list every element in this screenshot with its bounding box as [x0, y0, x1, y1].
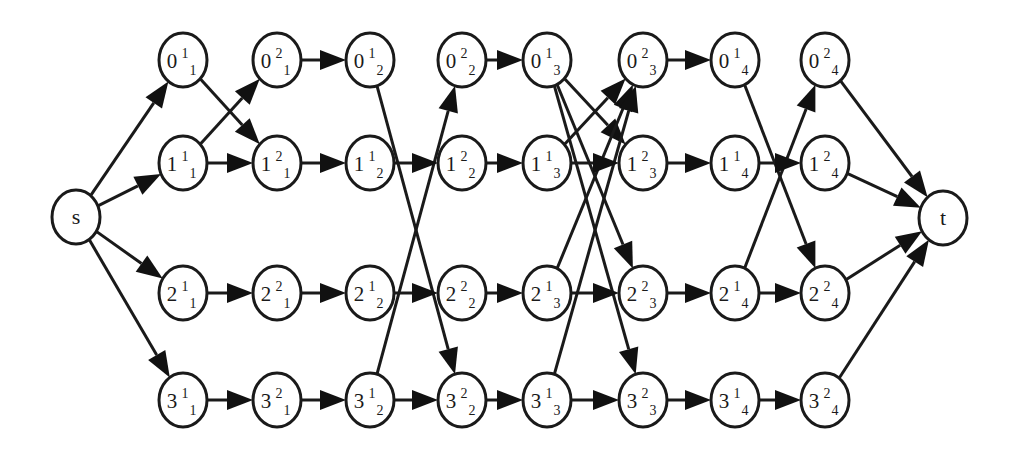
node-base-label: 1 — [354, 152, 365, 176]
node-superscript: 2 — [461, 149, 468, 164]
node-subscript: 1 — [190, 296, 197, 311]
node-2_1_2: 212 — [346, 266, 394, 320]
arrowhead-icon — [797, 85, 816, 113]
graph-diagram: st01111121131102112122132101211221231202… — [0, 0, 1019, 464]
arrowhead-icon — [685, 153, 711, 173]
edge-2_1_1-to-2_2_1 — [207, 283, 253, 303]
edge-3_1_4-to-3_2_4 — [759, 390, 801, 410]
node-superscript: 1 — [546, 149, 553, 164]
arrowhead-icon — [227, 153, 253, 173]
node-base-label: 2 — [627, 282, 638, 306]
node-s: s — [52, 190, 100, 244]
node-0_1_3: 013 — [523, 33, 571, 87]
arrowhead-icon — [412, 390, 438, 410]
edge-3_2_4-to-t — [839, 240, 929, 378]
node-3_1_2: 312 — [346, 373, 394, 427]
node-subscript: 2 — [377, 296, 384, 311]
arrowhead-icon — [685, 390, 711, 410]
node-superscript: 1 — [546, 279, 553, 294]
node-superscript: 2 — [642, 149, 649, 164]
node-base-label: 1 — [261, 152, 272, 176]
node-subscript: 1 — [284, 296, 291, 311]
arrowhead-icon — [227, 283, 253, 303]
edge-3_2_2-to-3_1_3 — [486, 390, 523, 410]
arrowhead-icon — [685, 283, 711, 303]
node-base-label: 1 — [719, 152, 730, 176]
node-subscript: 1 — [190, 63, 197, 78]
node-subscript: 3 — [554, 296, 561, 311]
edge-2_2_1-to-2_1_2 — [301, 283, 346, 303]
node-subscript: 4 — [742, 63, 749, 78]
node-3_2_1: 321 — [253, 373, 301, 427]
node-superscript: 2 — [461, 386, 468, 401]
arrowhead-icon — [619, 347, 638, 375]
edge-3_1_1-to-3_2_1 — [207, 390, 253, 410]
edge-1_2_1-to-1_1_2 — [301, 153, 346, 173]
edge-2_2_2-to-2_1_3 — [486, 283, 523, 303]
node-base-label: 3 — [261, 389, 272, 413]
node-subscript: 4 — [742, 403, 749, 418]
edge-3_1_2-to-3_2_2 — [394, 390, 438, 410]
node-superscript: 2 — [642, 279, 649, 294]
arrowhead-icon — [497, 153, 523, 173]
edge-2_1_4-to-2_2_4 — [759, 283, 801, 303]
arrowhead-icon — [893, 188, 921, 208]
node-3_1_3: 313 — [523, 373, 571, 427]
arrowhead-icon — [497, 283, 523, 303]
node-2_1_3: 213 — [523, 266, 571, 320]
node-1_1_3: 113 — [523, 136, 571, 190]
arrowhead-icon — [497, 390, 523, 410]
node-t: t — [919, 191, 967, 245]
node-superscript: 2 — [461, 279, 468, 294]
arrowhead-icon — [775, 283, 801, 303]
node-subscript: 2 — [469, 63, 476, 78]
node-2_2_1: 221 — [253, 266, 301, 320]
arrowhead-icon — [320, 283, 346, 303]
node-subscript: 4 — [832, 296, 839, 311]
node-base-label: 3 — [167, 389, 178, 413]
edge-0_2_4-to-t — [840, 81, 927, 198]
node-superscript: 2 — [276, 46, 283, 61]
arrowhead-icon — [320, 390, 346, 410]
arrowhead-icon — [146, 81, 169, 108]
node-base-label: 0 — [261, 49, 272, 73]
arrowhead-icon — [227, 390, 253, 410]
node-base-label: 3 — [809, 389, 820, 413]
arrowhead-icon — [439, 347, 458, 375]
arrowhead-icon — [320, 153, 346, 173]
node-subscript: 1 — [284, 63, 291, 78]
node-1_2_4: 124 — [801, 136, 849, 190]
node-superscript: 1 — [369, 149, 376, 164]
node-base-label: 0 — [354, 49, 365, 73]
node-3_2_2: 322 — [438, 373, 486, 427]
edge-0_2_2-to-0_1_3 — [486, 50, 523, 70]
node-0_1_4: 014 — [711, 33, 759, 87]
node-subscript: 4 — [742, 296, 749, 311]
node-superscript: 2 — [824, 279, 831, 294]
node-superscript: 1 — [182, 279, 189, 294]
node-base-label: 0 — [627, 49, 638, 73]
arrowhead-icon — [593, 390, 619, 410]
node-subscript: 2 — [377, 403, 384, 418]
node-subscript: 2 — [377, 166, 384, 181]
node-subscript: 3 — [650, 166, 657, 181]
node-1_1_2: 112 — [346, 136, 394, 190]
node-base-label: 3 — [354, 389, 365, 413]
node-label: t — [940, 205, 946, 230]
node-base-label: 2 — [167, 282, 178, 306]
node-3_1_4: 314 — [711, 373, 759, 427]
node-base-label: 2 — [531, 282, 542, 306]
node-subscript: 3 — [650, 296, 657, 311]
arrowhead-icon — [797, 240, 816, 268]
node-base-label: 3 — [531, 389, 542, 413]
node-superscript: 1 — [546, 386, 553, 401]
node-subscript: 4 — [742, 166, 749, 181]
node-base-label: 1 — [809, 152, 820, 176]
node-base-label: 3 — [627, 389, 638, 413]
node-0_1_1: 011 — [159, 33, 207, 87]
node-0_2_1: 021 — [253, 33, 301, 87]
node-2_1_1: 211 — [159, 266, 207, 320]
node-1_2_2: 122 — [438, 136, 486, 190]
node-superscript: 2 — [461, 46, 468, 61]
edge-0_2_3-to-0_1_4 — [667, 50, 711, 70]
